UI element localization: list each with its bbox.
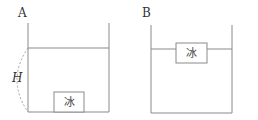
container-b-walls <box>151 25 232 113</box>
ice-block-a-label: 冰 <box>64 96 75 109</box>
container-b-label: B <box>142 6 151 20</box>
container-a: A 冰 H <box>11 6 109 112</box>
height-label: H <box>11 71 23 85</box>
diagram-canvas: A 冰 H B 冰 <box>0 0 258 120</box>
ice-block-b-label: 冰 <box>186 47 197 60</box>
container-b: B 冰 <box>142 6 232 113</box>
container-a-label: A <box>17 6 27 20</box>
